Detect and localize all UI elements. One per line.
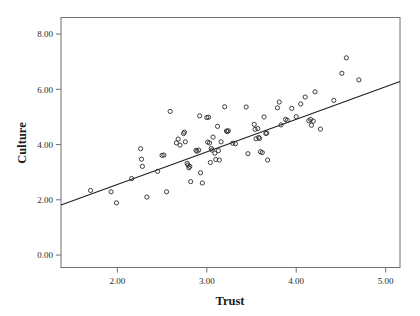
data-point bbox=[303, 95, 307, 99]
data-point bbox=[183, 140, 187, 144]
data-point bbox=[211, 135, 215, 139]
data-point bbox=[253, 127, 257, 131]
x-tick-label: 4.00 bbox=[288, 276, 304, 286]
data-point bbox=[340, 71, 344, 75]
data-point bbox=[198, 171, 202, 175]
data-point bbox=[299, 102, 303, 106]
y-tick-label: 4.00 bbox=[37, 140, 53, 150]
data-point bbox=[294, 115, 298, 119]
data-point bbox=[168, 109, 172, 113]
y-tick-label: 6.00 bbox=[37, 85, 53, 95]
y-axis-title: Culture bbox=[15, 122, 29, 164]
data-point bbox=[140, 164, 144, 168]
x-tick-label: 5.00 bbox=[378, 276, 394, 286]
data-point bbox=[290, 106, 294, 110]
data-point bbox=[344, 56, 348, 60]
data-point bbox=[208, 160, 212, 164]
data-point bbox=[223, 105, 227, 109]
scatterplot-figure: 2.003.004.005.00 0.002.004.006.008.00 Tr… bbox=[0, 0, 420, 316]
x-tick-label: 3.00 bbox=[199, 276, 215, 286]
data-point bbox=[277, 100, 281, 104]
data-point bbox=[275, 106, 279, 110]
data-point bbox=[109, 190, 113, 194]
data-point bbox=[256, 126, 260, 130]
y-axis-ticks: 0.002.004.006.008.00 bbox=[37, 29, 61, 260]
data-point bbox=[313, 90, 317, 94]
data-point bbox=[164, 190, 168, 194]
data-point bbox=[176, 137, 180, 141]
data-point bbox=[233, 142, 237, 146]
y-tick-label: 2.00 bbox=[37, 195, 53, 205]
data-points bbox=[88, 56, 361, 205]
data-point bbox=[219, 140, 223, 144]
data-point bbox=[266, 158, 270, 162]
data-point bbox=[189, 179, 193, 183]
plot-canvas: 2.003.004.005.00 0.002.004.006.008.00 Tr… bbox=[0, 0, 420, 316]
data-point bbox=[262, 115, 266, 119]
data-point bbox=[332, 98, 336, 102]
x-axis-ticks: 2.003.004.005.00 bbox=[109, 268, 394, 286]
data-point bbox=[88, 188, 92, 192]
y-tick-label: 0.00 bbox=[37, 250, 53, 260]
y-tick-label: 8.00 bbox=[37, 29, 53, 39]
data-point bbox=[309, 123, 313, 127]
data-point bbox=[182, 130, 186, 134]
x-axis-title: Trust bbox=[216, 294, 246, 308]
data-point bbox=[244, 105, 248, 109]
data-point bbox=[246, 152, 250, 156]
data-point bbox=[198, 114, 202, 118]
data-point bbox=[318, 127, 322, 131]
data-point bbox=[357, 78, 361, 82]
data-point bbox=[139, 157, 143, 161]
data-point bbox=[252, 122, 256, 126]
data-point bbox=[178, 143, 182, 147]
data-point bbox=[216, 149, 220, 153]
data-point bbox=[114, 201, 118, 205]
x-tick-label: 2.00 bbox=[109, 276, 125, 286]
data-point bbox=[200, 181, 204, 185]
data-point bbox=[145, 195, 149, 199]
data-point bbox=[215, 124, 219, 128]
data-point bbox=[139, 147, 143, 151]
